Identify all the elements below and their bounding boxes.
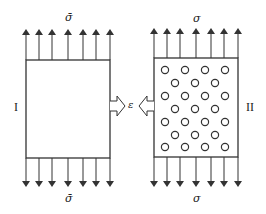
void-pattern [161, 66, 228, 150]
top-arrows-ii [154, 31, 238, 58]
top-arrows-i [26, 32, 110, 60]
stress-label-top-i: σ̄ [65, 12, 73, 23]
hollow-arrow-right-icon [110, 96, 125, 116]
bottom-arrows-i [26, 158, 110, 184]
stress-label-bottom-i: σ̄ [65, 193, 73, 204]
panel-label-ii: II [246, 101, 254, 113]
block-i [26, 60, 110, 158]
stress-label-top-ii: σ [193, 13, 201, 24]
strain-label: ε [128, 100, 133, 110]
bottom-arrows-ii [154, 157, 238, 184]
stress-label-bottom-ii: σ [193, 193, 201, 204]
panel-label-i: I [14, 101, 18, 113]
hollow-arrow-left-icon [139, 96, 154, 116]
